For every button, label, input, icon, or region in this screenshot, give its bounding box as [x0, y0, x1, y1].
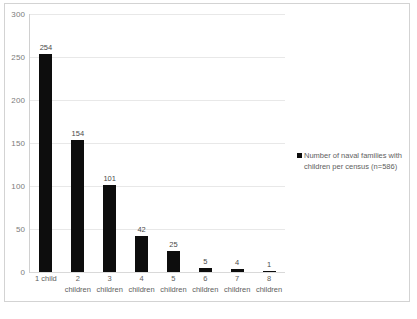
category-label-line1: 7: [224, 274, 250, 285]
value-axis-tick-label: 150: [11, 139, 25, 148]
category-axis-tick-label: 6children: [192, 274, 218, 295]
bar[interactable]: [263, 271, 276, 272]
bar[interactable]: [135, 236, 148, 272]
category-label-line1: 2: [65, 274, 91, 285]
category-axis-tick-label: 2children: [65, 274, 91, 295]
category-label-line1: 3: [97, 274, 123, 285]
bar-value-label: 154: [72, 129, 85, 138]
category-label-line2: children: [192, 285, 218, 296]
bar[interactable]: [71, 140, 84, 272]
category-axis-line: [30, 272, 285, 273]
value-axis-tick-label: 300: [11, 10, 25, 19]
category-label-line2: children: [224, 285, 250, 296]
legend-label-line1: Number of naval families with: [304, 151, 402, 160]
value-axis-tick-label: 250: [11, 53, 25, 62]
category-axis-tick-label: 5children: [160, 274, 186, 295]
value-axis-tick-label: 100: [11, 182, 25, 191]
category-label-line1: 5: [160, 274, 186, 285]
figure-caption: [34, 309, 394, 319]
bar-value-label: 101: [103, 174, 116, 183]
legend-swatch-icon: [297, 153, 302, 158]
bar-value-label: 254: [40, 43, 53, 52]
category-axis-tick-label: 8children: [256, 274, 282, 295]
value-axis-tick-label: 0: [20, 268, 25, 277]
value-axis-tick-label: 200: [11, 96, 25, 105]
category-label-line2: children: [256, 285, 282, 296]
bar[interactable]: [199, 268, 212, 272]
category-label-line1: 8: [256, 274, 282, 285]
bar-value-label: 5: [203, 257, 207, 266]
category-label-line2: children: [128, 285, 154, 296]
category-axis-tick-label: 4children: [128, 274, 154, 295]
category-label-line2: children: [160, 285, 186, 296]
category-axis-labels: 1 child2children3children4children5child…: [30, 274, 285, 302]
bar[interactable]: [167, 251, 180, 273]
gridline: [30, 14, 285, 15]
gridline: [30, 100, 285, 101]
figure-container: 050100150200250300 2541541014225541 1 ch…: [0, 0, 417, 319]
gridline: [30, 143, 285, 144]
category-axis-tick-label: 7children: [224, 274, 250, 295]
category-label-line1: 4: [128, 274, 154, 285]
bar-value-label: 1: [267, 260, 271, 269]
gridline: [30, 57, 285, 58]
category-label-line1: 6: [192, 274, 218, 285]
value-axis-tick-label: 50: [16, 225, 25, 234]
plot-area: 2541541014225541: [30, 14, 285, 272]
chart-legend: Number of naval families with children p…: [297, 150, 407, 172]
bar[interactable]: [103, 185, 116, 272]
bar-value-label: 4: [235, 258, 239, 267]
bar[interactable]: [231, 269, 244, 272]
value-axis-labels: 050100150200250300: [0, 0, 25, 319]
category-axis-tick-label: 1 child: [35, 274, 57, 285]
gridline: [30, 229, 285, 230]
bar[interactable]: [39, 54, 52, 272]
category-axis-tick-label: 3children: [97, 274, 123, 295]
legend-label-line2: children per census (n=586): [304, 161, 407, 172]
category-label-line2: children: [65, 285, 91, 296]
bar-value-label: 25: [169, 240, 177, 249]
gridline: [30, 186, 285, 187]
category-label-line2: children: [97, 285, 123, 296]
category-label-line1: 1 child: [35, 274, 57, 285]
bar-value-label: 42: [137, 225, 145, 234]
